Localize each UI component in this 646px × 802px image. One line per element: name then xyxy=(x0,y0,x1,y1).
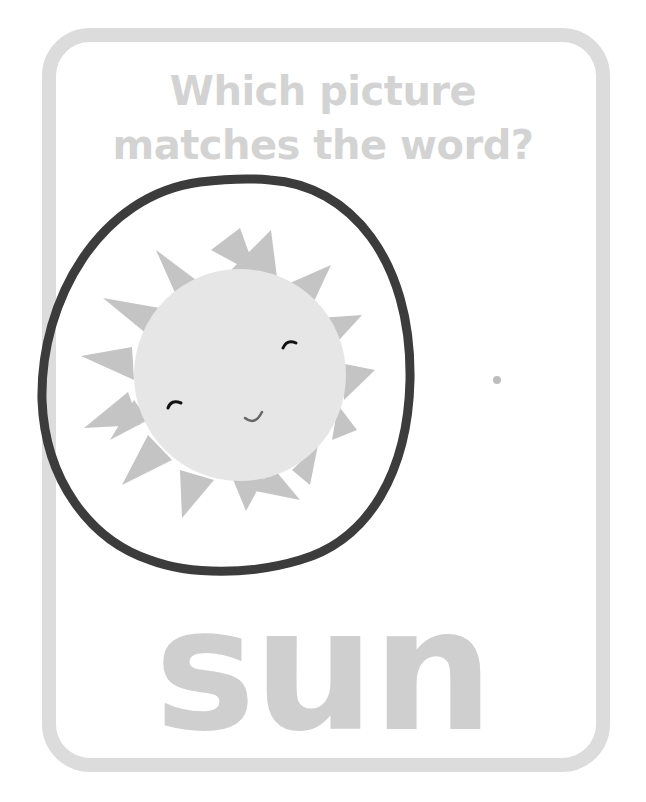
sun-icon[interactable] xyxy=(81,228,375,518)
target-word: sun xyxy=(0,585,646,755)
answer-dot[interactable] xyxy=(493,376,501,384)
sun-body xyxy=(134,269,346,481)
